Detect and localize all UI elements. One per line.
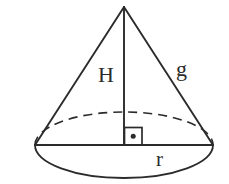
radius-label: r (156, 149, 163, 170)
base-ellipse-front-arc (35, 145, 213, 178)
right-angle-dot-icon (131, 134, 136, 139)
cone-diagram-svg (0, 0, 229, 184)
cone-figure: H g r (0, 0, 229, 184)
height-label: H (98, 64, 114, 86)
cone-right-slant-line (124, 7, 213, 145)
slant-height-label: g (176, 58, 187, 80)
